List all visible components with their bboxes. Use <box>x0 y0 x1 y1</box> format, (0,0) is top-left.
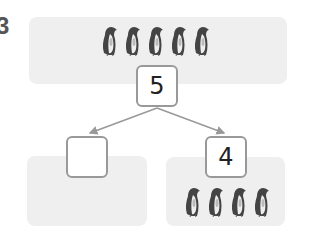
penguin-icon <box>229 186 249 219</box>
part-left-answer-box[interactable] <box>66 136 108 178</box>
penguin-icon <box>183 186 203 219</box>
whole-number-box: 5 <box>136 65 178 107</box>
penguin-icon <box>252 186 272 219</box>
part-right-number-box: 4 <box>205 136 247 178</box>
penguin-icon <box>206 186 226 219</box>
part-right-penguins <box>183 186 272 219</box>
